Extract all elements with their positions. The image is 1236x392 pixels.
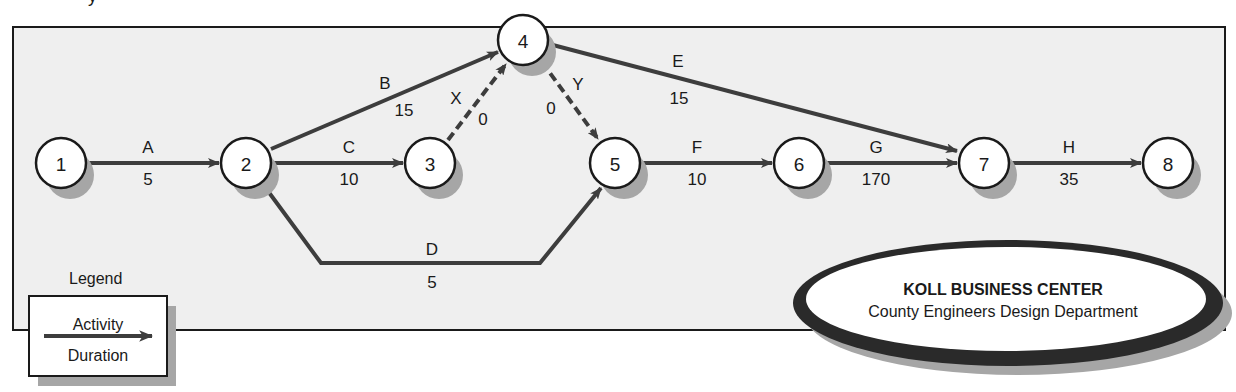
org-subtitle: County Engineers Design Department — [868, 303, 1138, 320]
activity-a-duration: 5 — [143, 170, 152, 189]
activity-h-duration: 35 — [1060, 170, 1079, 189]
activity-g-name: G — [869, 138, 882, 157]
node-5-label: 5 — [610, 154, 621, 175]
activity-b-name: B — [379, 74, 390, 93]
legend-duration-label: Duration — [68, 347, 128, 364]
node-4-label: 4 — [518, 31, 529, 52]
activity-d-name: D — [426, 240, 438, 259]
activity-h-name: H — [1063, 138, 1075, 157]
org-title: KOLL BUSINESS CENTER — [903, 281, 1103, 298]
activity-x-name: X — [450, 89, 461, 108]
node-1-label: 1 — [56, 154, 67, 175]
node-2-label: 2 — [241, 154, 252, 175]
activity-g-duration: 170 — [862, 170, 890, 189]
activity-b-duration: 15 — [395, 101, 414, 120]
node-6-label: 6 — [794, 154, 805, 175]
activity-f-duration: 10 — [688, 170, 707, 189]
activity-y-name: Y — [572, 75, 583, 94]
node-3-label: 3 — [425, 154, 436, 175]
cropped-title-glyph: y — [88, 0, 97, 6]
activity-e-duration: 15 — [670, 89, 689, 108]
org-badge-inner — [806, 247, 1206, 351]
legend-title: Legend — [69, 270, 122, 287]
activity-x-duration: 0 — [478, 110, 487, 129]
project-network-diagram: y A 5 B 15 C 10 D 5 X 0 Y — [0, 0, 1236, 392]
node-7-label: 7 — [979, 154, 990, 175]
activity-e-name: E — [672, 52, 683, 71]
legend-activity-label: Activity — [73, 316, 124, 333]
activity-c-name: C — [343, 138, 355, 157]
activity-a-name: A — [142, 138, 154, 157]
node-8-label: 8 — [1163, 154, 1174, 175]
activity-d-duration: 5 — [427, 273, 436, 292]
activity-c-duration: 10 — [340, 170, 359, 189]
activity-f-name: F — [692, 138, 702, 157]
activity-y-duration: 0 — [546, 99, 555, 118]
